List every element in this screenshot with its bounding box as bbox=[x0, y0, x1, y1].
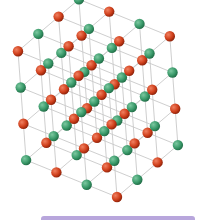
green-atom bbox=[82, 180, 92, 190]
bond bbox=[104, 131, 107, 167]
red-atom bbox=[165, 31, 175, 41]
green-atom bbox=[109, 156, 119, 166]
crystal-lattice-illustration bbox=[0, 0, 200, 220]
bond bbox=[79, 0, 82, 36]
bond bbox=[18, 51, 21, 87]
green-atom bbox=[76, 107, 86, 117]
bond bbox=[21, 88, 24, 124]
green-atom bbox=[127, 102, 137, 112]
bond bbox=[92, 65, 95, 101]
bond bbox=[74, 119, 77, 155]
bond bbox=[82, 36, 85, 72]
red-atom bbox=[112, 192, 122, 202]
bond bbox=[132, 107, 135, 143]
bond bbox=[48, 64, 51, 100]
bond bbox=[84, 72, 87, 108]
red-atom bbox=[106, 119, 116, 129]
bond bbox=[112, 124, 115, 160]
red-atom bbox=[114, 36, 124, 46]
bond bbox=[119, 41, 122, 77]
red-atom bbox=[53, 11, 63, 21]
bond bbox=[99, 59, 102, 95]
bond bbox=[38, 34, 41, 70]
bond bbox=[51, 100, 54, 136]
bond bbox=[44, 107, 47, 143]
bond bbox=[109, 12, 112, 48]
lattice-atoms bbox=[13, 0, 183, 202]
red-atom bbox=[129, 138, 139, 148]
bond bbox=[69, 46, 72, 82]
bond bbox=[94, 102, 97, 138]
red-atom bbox=[63, 41, 73, 51]
red-atom bbox=[18, 119, 28, 129]
bond bbox=[41, 70, 44, 106]
bond bbox=[109, 88, 112, 124]
green-atom bbox=[150, 121, 160, 131]
bond bbox=[150, 54, 153, 90]
red-atom bbox=[124, 66, 134, 76]
green-atom bbox=[43, 58, 53, 68]
bond bbox=[142, 60, 145, 96]
green-atom bbox=[132, 175, 142, 185]
bond bbox=[122, 78, 125, 114]
bond bbox=[71, 83, 74, 119]
bond bbox=[61, 53, 64, 89]
bond bbox=[102, 95, 105, 131]
bond bbox=[135, 143, 138, 179]
green-atom bbox=[74, 0, 84, 5]
green-atom bbox=[49, 131, 59, 141]
bond bbox=[125, 114, 128, 150]
green-atom bbox=[173, 140, 183, 150]
red-atom bbox=[170, 104, 180, 114]
bond bbox=[170, 36, 173, 72]
red-atom bbox=[73, 71, 83, 81]
green-atom bbox=[84, 24, 94, 34]
bond bbox=[155, 126, 158, 162]
bond bbox=[79, 76, 82, 112]
red-atom bbox=[104, 6, 114, 16]
bond bbox=[81, 112, 84, 148]
red-atom bbox=[152, 157, 162, 167]
bond bbox=[173, 73, 176, 109]
bond bbox=[89, 29, 92, 65]
green-atom bbox=[167, 67, 177, 77]
bond bbox=[84, 148, 87, 184]
bond bbox=[59, 17, 62, 53]
bond bbox=[112, 48, 115, 84]
green-atom bbox=[94, 53, 104, 63]
green-atom bbox=[16, 82, 26, 92]
green-atom bbox=[21, 155, 31, 165]
red-atom bbox=[46, 95, 56, 105]
red-atom bbox=[13, 46, 23, 56]
bond bbox=[175, 109, 178, 145]
green-atom bbox=[144, 48, 154, 58]
green-atom bbox=[33, 29, 43, 39]
bond bbox=[152, 90, 155, 126]
bond bbox=[145, 97, 148, 133]
bond bbox=[23, 124, 26, 160]
bond bbox=[140, 24, 143, 60]
bond bbox=[114, 161, 117, 197]
bottom-bar bbox=[41, 216, 195, 220]
bond bbox=[54, 136, 57, 172]
green-atom bbox=[104, 83, 114, 93]
bond bbox=[64, 89, 67, 125]
red-atom bbox=[147, 85, 157, 95]
green-atom bbox=[134, 19, 144, 29]
bond bbox=[129, 71, 132, 107]
bond bbox=[115, 84, 118, 120]
red-atom bbox=[79, 143, 89, 153]
red-atom bbox=[51, 167, 61, 177]
